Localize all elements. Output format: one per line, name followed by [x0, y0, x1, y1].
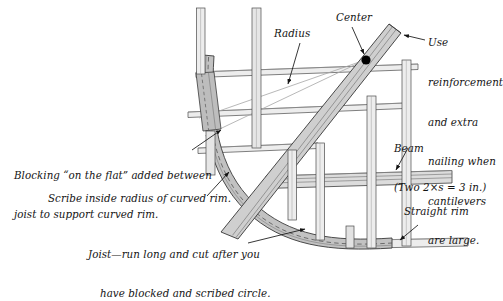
label-reinforcement-line-1: Use [428, 36, 503, 49]
leader-reinforcement [404, 35, 425, 40]
vertical-joist-mid-c [367, 96, 376, 248]
label-reinforcement-line-2: reinforcement [428, 76, 503, 89]
vertical-joist-left [197, 8, 206, 74]
label-beam-line-1: Beam [394, 142, 486, 155]
label-straight-rim: Straight rim [404, 205, 469, 218]
label-scribe: Scribe inside radius of curved rim. [48, 192, 231, 205]
label-center: Center [336, 11, 372, 24]
radius-center-point [361, 55, 370, 64]
vertical-joist-stub [346, 226, 354, 248]
vertical-joist-mid-a [288, 150, 297, 220]
leader-radius [288, 43, 300, 84]
label-radius: Radius [274, 27, 310, 40]
label-reinforcement-line-6: are large. [428, 234, 503, 247]
label-joist-block: Joist—run long and cut after you have bl… [88, 222, 270, 301]
label-blocking-line-1: Blocking “on the flat” added between [14, 169, 212, 182]
blocking-on-the-flat [196, 72, 221, 131]
label-joist-line-2: have blocked and scribed circle. [88, 287, 270, 300]
vertical-joist-second [252, 8, 261, 148]
label-joist-line-1: Joist—run long and cut after you [88, 248, 270, 261]
joist-top [196, 64, 418, 78]
vertical-joist-mid-b [316, 143, 325, 240]
label-beam-line-2: (Two 2×s = 3 in.) [394, 181, 486, 194]
label-blocking-line-2: joist to support curved rim. [14, 208, 212, 221]
leader-center [352, 27, 364, 54]
